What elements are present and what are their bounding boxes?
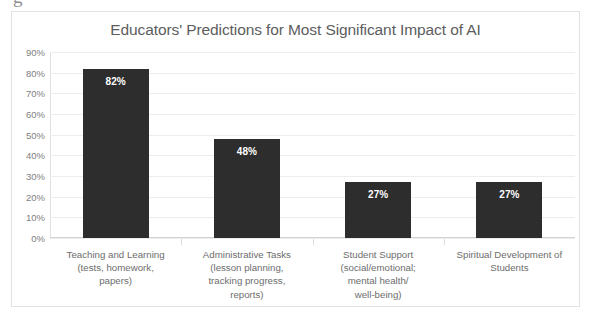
category-label-line: Spiritual Development of: [444, 248, 575, 261]
bar-slot: 82%: [50, 52, 181, 238]
bar-value-label: 48%: [214, 146, 280, 157]
bar[interactable]: 48%: [214, 139, 280, 238]
x-axis-category-label: Spiritual Development ofStudents: [444, 248, 575, 274]
category-label-line: (tests, homework,: [50, 261, 181, 274]
y-axis-tick-label: 30%: [26, 171, 45, 182]
bar-value-label: 27%: [345, 189, 411, 200]
y-axis-tick-label: 10%: [26, 212, 45, 223]
category-separator-tick: [444, 239, 445, 245]
category-label-line: Student Support: [313, 248, 444, 261]
x-axis-category-label: Administrative Tasks(lesson planning,tra…: [181, 248, 312, 301]
y-axis-tick-label: 40%: [26, 150, 45, 161]
bar-value-label: 82%: [83, 76, 149, 87]
bar-slot: 27%: [313, 52, 444, 238]
category-separator-tick: [313, 239, 314, 245]
y-axis-tick-label: 20%: [26, 191, 45, 202]
bar[interactable]: 82%: [83, 69, 149, 238]
category-label-line: (lesson planning,: [181, 261, 312, 274]
x-axis-category-label: Teaching and Learning(tests, homework,pa…: [50, 248, 181, 288]
category-label-line: Administrative Tasks: [181, 248, 312, 261]
category-label-line: tracking progress,: [181, 274, 312, 287]
y-axis-tick-label: 80%: [26, 67, 45, 78]
y-axis-tick-label: 0%: [31, 233, 45, 244]
x-axis-category-labels: Teaching and Learning(tests, homework,pa…: [50, 239, 575, 305]
y-axis-tick-label: 90%: [26, 47, 45, 58]
category-label-line: well-being): [313, 288, 444, 301]
cut-off-text-artifact: g: [13, 0, 23, 6]
chart-card: Educators' Predictions for Most Signific…: [11, 11, 580, 307]
chart-title: Educators' Predictions for Most Signific…: [12, 21, 579, 39]
y-axis-tick-label: 50%: [26, 129, 45, 140]
plot-area: 0%10%20%30%40%50%60%70%80%90%82%48%27%27…: [50, 52, 575, 238]
category-separator-tick: [181, 239, 182, 245]
y-axis-tick-label: 60%: [26, 109, 45, 120]
bar[interactable]: 27%: [345, 182, 411, 238]
category-label-line: Students: [444, 261, 575, 274]
category-label-line: Teaching and Learning: [50, 248, 181, 261]
bar[interactable]: 27%: [476, 182, 542, 238]
bar-slot: 48%: [181, 52, 312, 238]
category-label-line: reports): [181, 288, 312, 301]
x-axis-category-label: Student Support(social/emotional;mental …: [313, 248, 444, 301]
category-label-line: papers): [50, 274, 181, 287]
bar-value-label: 27%: [476, 189, 542, 200]
category-label-line: mental health/: [313, 274, 444, 287]
y-axis-tick-label: 70%: [26, 88, 45, 99]
category-label-line: (social/emotional;: [313, 261, 444, 274]
bar-slot: 27%: [444, 52, 575, 238]
